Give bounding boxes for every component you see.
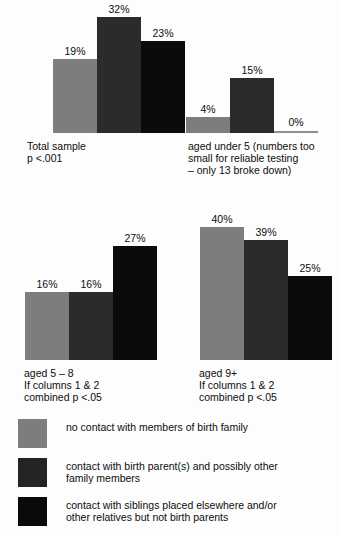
panel-caption: aged 9+ If columns 1 & 2 combined p <.05 [199,367,277,404]
bar-slot: 0% [274,2,318,133]
bar-group: 40% 39% 25% [171,208,341,360]
bar-series-0 [186,117,230,133]
legend-item: contact with siblings placed elsewhere a… [18,497,328,527]
bar-slot: 39% [244,208,288,360]
bar-value-label: 39% [255,227,276,238]
legend-label: contact with birth parent(s) and possibl… [66,458,278,485]
plot-area: 19% 32% 23% [0,2,170,133]
legend-item: no contact with members of birth family [18,419,328,449]
bar-series-0 [25,292,69,360]
legend-label: no contact with members of birth family [66,419,248,433]
bar-group: 4% 15% 0% [171,2,341,133]
bar-slot: 16% [25,208,69,360]
bar-value-label: 0% [288,117,303,128]
bar-value-label: 4% [200,104,215,115]
chart-panel-aged-5-8: 16% 16% 27% aged 5 – 8 If columns 1 & 2 … [0,208,170,408]
plot-area: 40% 39% 25% [171,208,341,360]
bar-slot: 27% [113,208,157,360]
bar-value-label: 32% [108,4,129,15]
plot-area: 4% 15% 0% [171,2,341,133]
bar-series-1 [69,292,113,360]
bar-group: 19% 32% 23% [0,2,170,133]
bar-slot: 32% [97,2,141,133]
bar-slot: 4% [186,2,230,133]
legend-item: contact with birth parent(s) and possibl… [18,458,328,488]
chart-panel-aged-9-plus: 40% 39% 25% aged 9+ If columns 1 & 2 com… [171,208,341,408]
bar-series-2 [113,246,157,360]
legend-label: contact with siblings placed elsewhere a… [66,497,277,524]
bar-slot: 16% [69,208,113,360]
bar-series-0 [53,59,97,133]
plot-area: 16% 16% 27% [0,208,170,360]
panel-caption: aged under 5 (numbers too small for reli… [188,140,315,177]
bar-slot: 25% [288,208,332,360]
bar-series-1 [97,17,141,133]
bar-series-1 [230,78,274,133]
bar-value-label: 19% [64,46,85,57]
bar-series-0 [200,227,244,360]
bar-value-label: 16% [80,279,101,290]
bar-value-label: 25% [299,263,320,274]
bar-slot: 40% [200,208,244,360]
bar-value-label: 27% [124,233,145,244]
legend-swatch-icon [18,419,47,448]
bar-series-2 [274,131,318,133]
bar-slot: 15% [230,2,274,133]
bar-group: 16% 16% 27% [0,208,170,360]
chart-panel-total-sample: 19% 32% 23% Total sample p <.001 [0,2,170,202]
chart-panel-aged-under-5: 4% 15% 0% aged under 5 (numbers too smal… [171,2,341,202]
bar-value-label: 16% [36,279,57,290]
bar-series-2 [288,276,332,360]
bar-value-label: 40% [211,214,232,225]
chart-legend: no contact with members of birth family … [18,419,328,536]
legend-swatch-icon [18,497,47,526]
panel-caption: Total sample p <.001 [27,140,86,164]
panel-caption: aged 5 – 8 If columns 1 & 2 combined p <… [24,367,102,404]
bar-value-label: 15% [241,65,262,76]
bar-slot: 19% [53,2,97,133]
legend-swatch-icon [18,458,47,487]
bar-chart-figure: 19% 32% 23% Total sample p <.001 4% [0,0,341,536]
bar-series-1 [244,240,288,360]
